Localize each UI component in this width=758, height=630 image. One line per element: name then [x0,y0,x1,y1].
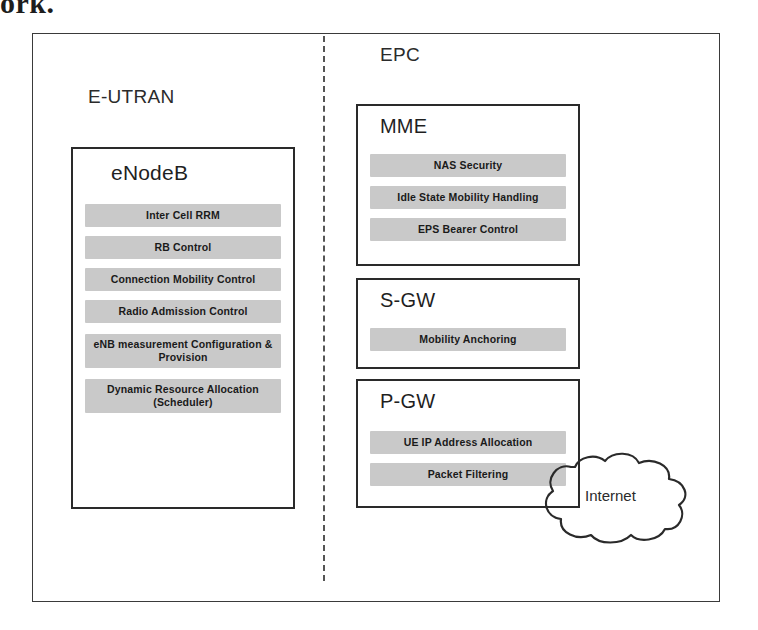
function-block: Dynamic Resource Allocation (Scheduler) [85,379,281,413]
function-block: Mobility Anchoring [370,328,566,351]
function-list-sgw: Mobility Anchoring [358,328,578,360]
function-block: RB Control [85,236,281,259]
node-box-mme: MME NAS Security Idle State Mobility Han… [356,104,580,266]
function-list-mme: NAS Security Idle State Mobility Handlin… [358,154,578,250]
function-block: Idle State Mobility Handling [370,186,566,209]
function-list-enodeb: Inter Cell RRM RB Control Connection Mob… [73,204,293,422]
internet-cloud-icon: Internet [533,449,705,549]
node-title-enodeb: eNodeB [111,161,188,185]
internet-label: Internet [585,487,636,504]
function-block: EPS Bearer Control [370,218,566,241]
figure-frame: E-UTRAN EPC eNodeB Inter Cell RRM RB Con… [32,33,720,602]
function-block: Radio Admission Control [85,300,281,323]
node-title-pgw: P-GW [380,390,435,413]
domain-divider-dashed-line [323,36,325,581]
node-box-sgw: S-GW Mobility Anchoring [356,278,580,369]
function-block: eNB measurement Configuration & Provisio… [85,334,281,368]
node-title-sgw: S-GW [380,289,435,312]
node-box-enodeb: eNodeB Inter Cell RRM RB Control Connect… [71,147,295,509]
function-block: NAS Security [370,154,566,177]
domain-label-epc: EPC [380,44,420,66]
caption-fragment: ork. [0,0,55,20]
function-block: Inter Cell RRM [85,204,281,227]
function-block: Connection Mobility Control [85,268,281,291]
node-title-mme: MME [380,115,427,138]
domain-label-eutran: E-UTRAN [88,86,175,108]
